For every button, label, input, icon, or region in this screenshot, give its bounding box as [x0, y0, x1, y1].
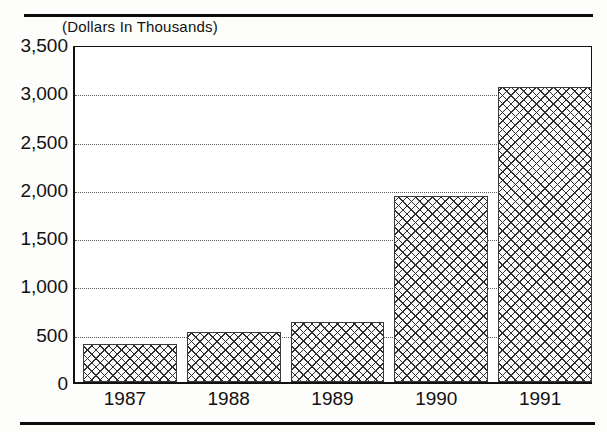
- bar-1991: [498, 87, 592, 382]
- y-tick-label: 2,500: [2, 133, 68, 152]
- x-tick-label: 1987: [73, 388, 177, 410]
- bottom-rule: [20, 422, 595, 425]
- x-tick-label: 1990: [384, 388, 488, 410]
- y-tick-label: 3,500: [2, 36, 68, 55]
- bar-1990: [394, 196, 488, 382]
- y-tick-label: 3,000: [2, 84, 68, 103]
- x-tick-label: 1991: [488, 388, 592, 410]
- y-axis-labels: 05001,0001,5002,0002,5003,0003,500: [0, 0, 68, 432]
- y-tick-label: 0: [2, 374, 68, 393]
- figure-sheet: (Dollars In Thousands) 05001,0001,5002,0…: [0, 0, 607, 432]
- bar-1987: [83, 344, 177, 382]
- bar-1988: [187, 332, 281, 382]
- top-rule: [24, 14, 593, 17]
- bar-series: [75, 47, 591, 382]
- chart-caption: (Dollars In Thousands): [62, 18, 218, 35]
- plot-area: [73, 46, 592, 384]
- y-tick-label: 1,000: [2, 277, 68, 296]
- bar-1989: [291, 322, 385, 382]
- x-tick-label: 1989: [281, 388, 385, 410]
- y-tick-label: 2,000: [2, 181, 68, 200]
- x-tick-label: 1988: [177, 388, 281, 410]
- x-axis-labels: 19871988198919901991: [73, 388, 592, 414]
- y-tick-label: 1,500: [2, 229, 68, 248]
- y-tick-label: 500: [2, 326, 68, 345]
